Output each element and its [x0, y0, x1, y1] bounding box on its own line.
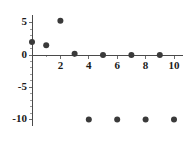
data-point	[29, 39, 35, 45]
data-point	[72, 51, 78, 57]
data-point	[100, 52, 106, 58]
data-point	[143, 117, 149, 123]
x-tick-label: 8	[143, 59, 149, 71]
x-tick-label: 6	[114, 59, 120, 71]
y-tick-label: -10	[12, 112, 27, 124]
data-point	[171, 117, 177, 123]
data-points-group	[29, 18, 177, 123]
data-point	[128, 52, 134, 58]
x-tick-label: 4	[86, 59, 92, 71]
data-point	[86, 117, 92, 123]
y-tick-label: -5	[18, 80, 28, 92]
data-point	[114, 117, 120, 123]
y-tick-label: 0	[22, 48, 28, 60]
x-tick-label: 2	[58, 59, 64, 71]
x-tick-labels-group: 246810	[58, 59, 180, 71]
data-point	[57, 18, 63, 24]
y-tick-labels-group: 50-5-10	[12, 15, 27, 124]
x-axis-ticks	[46, 55, 174, 59]
y-axis-ticks	[29, 23, 33, 120]
y-tick-label: 5	[22, 15, 28, 27]
data-point	[43, 42, 49, 48]
x-tick-label: 10	[169, 59, 181, 71]
data-point	[157, 52, 163, 58]
plot-area: 246810 50-5-10	[0, 0, 194, 168]
scatter-chart: 246810 50-5-10	[0, 0, 194, 168]
